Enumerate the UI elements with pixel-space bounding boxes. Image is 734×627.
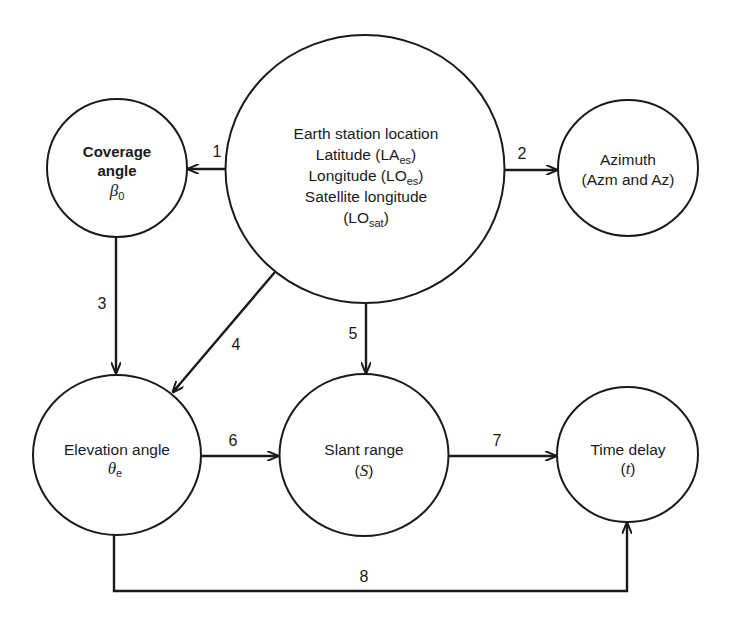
node-time-delay: Time delay (t) — [557, 387, 698, 522]
node-line1: Time delay — [590, 441, 665, 458]
edge-2: 2 — [505, 145, 557, 170]
edge-label-4: 4 — [232, 336, 241, 353]
node-elevation-angle: Elevation angle θe — [33, 375, 201, 535]
edge-label-2: 2 — [518, 145, 527, 162]
node-azimuth: Azimuth (Azm and Az) — [558, 100, 698, 236]
node-circle — [558, 100, 698, 236]
node-line2: angle — [97, 162, 136, 179]
edge-5: 5 — [349, 303, 366, 373]
node-line2: (Azm and Az) — [581, 171, 674, 188]
node-coverage-angle: Coverage angle β0 — [47, 99, 187, 237]
node-line1: Slant range — [324, 441, 403, 458]
node-symbol: (S) — [355, 461, 374, 480]
edge-6: 6 — [201, 432, 278, 456]
edge-7: 7 — [448, 432, 556, 456]
edge-label-5: 5 — [349, 325, 358, 342]
edge-label-1: 1 — [213, 143, 222, 160]
edge-label-3: 3 — [98, 295, 107, 312]
diagram-svg: 1 2 3 4 5 6 7 8 Earth station location L… — [0, 0, 734, 627]
edge-label-6: 6 — [229, 432, 238, 449]
edge-label-8: 8 — [360, 568, 369, 585]
edge-4: 4 — [173, 272, 275, 392]
edge-3: 3 — [98, 237, 116, 373]
node-line1: Coverage — [83, 143, 151, 160]
node-satellite-longitude: Satellite longitude — [305, 188, 427, 205]
satellite-geometry-flow-diagram: 1 2 3 4 5 6 7 8 Earth station location L… — [0, 0, 734, 627]
node-slant-range: Slant range (S) — [280, 374, 449, 536]
node-symbol: (t) — [620, 459, 635, 478]
edge-label-7: 7 — [493, 432, 502, 449]
node-line1: Elevation angle — [64, 441, 170, 458]
node-line1: Azimuth — [600, 151, 656, 168]
arrow-diagonal-icon — [173, 272, 275, 392]
node-title: Earth station location — [294, 125, 439, 142]
edge-1: 1 — [188, 143, 226, 169]
node-earth-station-location: Earth station location Latitude (LAes) L… — [226, 35, 505, 303]
